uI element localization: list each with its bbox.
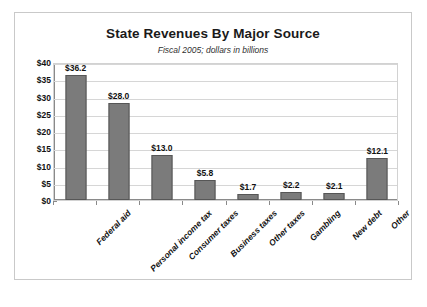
y-axis-tick-label: $30	[17, 93, 51, 103]
bar-value-label: $12.1	[367, 146, 388, 156]
plot-area: $36.2$28.0$13.0$5.8$1.7$2.2$2.1$12.1	[53, 63, 398, 201]
bar[interactable]	[281, 192, 302, 200]
bar-value-label: $28.0	[108, 91, 129, 101]
bar-slot: $1.7	[227, 64, 270, 200]
x-axis-tick-mark	[355, 201, 356, 205]
bar[interactable]	[65, 75, 86, 200]
chart-frame: State Revenues By Major Source Fiscal 20…	[14, 12, 412, 280]
x-axis-category-label: New debt	[350, 208, 384, 242]
bar-slot: $36.2	[54, 64, 97, 200]
bar[interactable]	[324, 193, 345, 200]
x-axis-category-label: Gambling	[308, 208, 343, 243]
y-axis-tick-label: $20	[17, 127, 51, 137]
y-axis-tick-label: $10	[17, 162, 51, 172]
x-axis-tick-mark	[53, 201, 54, 205]
chart-subtitle: Fiscal 2005; dollars in billions	[15, 45, 411, 55]
bar-slot: $12.1	[356, 64, 399, 200]
bar-value-label: $13.0	[151, 143, 172, 153]
x-axis-tick-mark	[269, 201, 270, 205]
y-axis-tick-label: $35	[17, 75, 51, 85]
y-axis-tick-label: $15	[17, 144, 51, 154]
y-axis-labels: $40$35$30$25$20$15$10$5$0	[15, 63, 51, 201]
x-axis-labels: Federal aidPersonal income taxConsumer t…	[53, 201, 398, 281]
bar[interactable]	[151, 155, 172, 200]
bar-slot: $2.1	[313, 64, 356, 200]
bar-slot: $5.8	[183, 64, 226, 200]
bar-value-label: $2.1	[326, 181, 343, 191]
bar-value-label: $2.2	[283, 180, 300, 190]
x-axis-tick-mark	[226, 201, 227, 205]
bar[interactable]	[194, 180, 215, 200]
x-axis-tick-mark	[182, 201, 183, 205]
y-axis-tick-label: $0	[17, 196, 51, 206]
bar[interactable]	[108, 103, 129, 200]
x-axis-tick-mark	[96, 201, 97, 205]
bar[interactable]	[367, 158, 388, 200]
bar[interactable]	[238, 194, 259, 200]
chart-title: State Revenues By Major Source	[15, 26, 411, 41]
y-axis-tick-label: $5	[17, 179, 51, 189]
bar-value-label: $5.8	[197, 168, 214, 178]
bar-slot: $13.0	[140, 64, 183, 200]
bar-slot: $2.2	[270, 64, 313, 200]
bar-slot: $28.0	[97, 64, 140, 200]
x-axis-tick-mark	[398, 201, 399, 205]
bar-value-label: $1.7	[240, 182, 257, 192]
x-axis-tick-mark	[139, 201, 140, 205]
x-axis-tick-mark	[312, 201, 313, 205]
y-axis-tick-label: $25	[17, 110, 51, 120]
y-axis-tick-label: $40	[17, 58, 51, 68]
bar-value-label: $36.2	[65, 63, 86, 73]
x-axis-category-label: Federal aid	[94, 208, 133, 247]
x-axis-category-label: Other	[389, 208, 412, 231]
